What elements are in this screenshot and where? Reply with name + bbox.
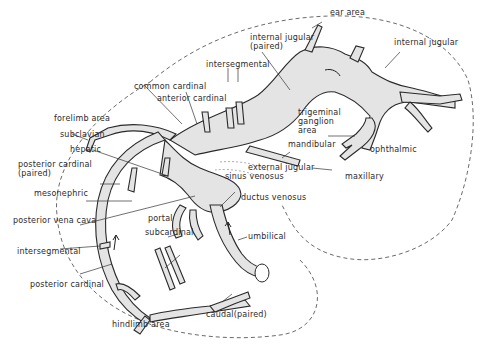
label-ear-area: ear area <box>330 8 365 17</box>
label-common-cardinal: common cardinal <box>134 82 206 91</box>
label-hindlimb-area: hindlimb area <box>112 320 170 329</box>
label-ophthalmic: ophthalmic <box>370 145 417 154</box>
label-subcardinal: subcardinal <box>145 228 193 237</box>
label-subclavian: subclavian <box>60 130 105 139</box>
ophthalmic-branch <box>405 102 432 132</box>
label-ductus-venosus: ductus venosus <box>241 193 306 202</box>
umbilical-end <box>255 264 269 282</box>
label-forelimb-area: forelimb area <box>54 114 110 123</box>
label-internal-jugular-paired: internal jugular (paired) <box>250 33 314 51</box>
intersegmental-stub <box>226 108 234 128</box>
label-sinus-venosus: sinus venosus <box>225 172 284 181</box>
label-posterior-cardinal-paired: posterior cardinal (paired) <box>18 160 92 178</box>
mesonephric-vessel <box>128 168 137 192</box>
label-mandibular: mandibular <box>288 140 336 149</box>
label-umbilical: umbilical <box>248 232 286 241</box>
label-portal: portal <box>148 214 173 223</box>
label-caudal-paired: caudal(paired) <box>206 310 267 319</box>
flow-arrow <box>113 235 119 250</box>
label-posterior-vena-cava: posterior vena cava <box>13 216 96 225</box>
label-trigeminal-ganglion-area: trigeminal ganglion area <box>298 108 341 135</box>
label-external-jugular: external jugular <box>248 163 315 172</box>
umbilical-vessel <box>210 205 262 278</box>
label-intersegmental-bottom: intersegmental <box>17 247 81 256</box>
label-internal-jugular: internal jugular <box>394 38 458 47</box>
label-mesonephric: mesonephric <box>34 189 88 198</box>
label-maxillary: maxillary <box>345 172 384 181</box>
venous-system-diagram: ear area internal jugular (paired) inter… <box>0 0 486 358</box>
label-hepatic: hepatic <box>70 145 101 154</box>
intersegmental-stub <box>236 102 244 124</box>
label-anterior-cardinal: anterior cardinal <box>157 94 227 103</box>
label-intersegmental-top: intersegmental <box>206 60 270 69</box>
dorsal-stub <box>350 46 364 62</box>
label-posterior-cardinal: posterior cardinal <box>30 280 104 289</box>
